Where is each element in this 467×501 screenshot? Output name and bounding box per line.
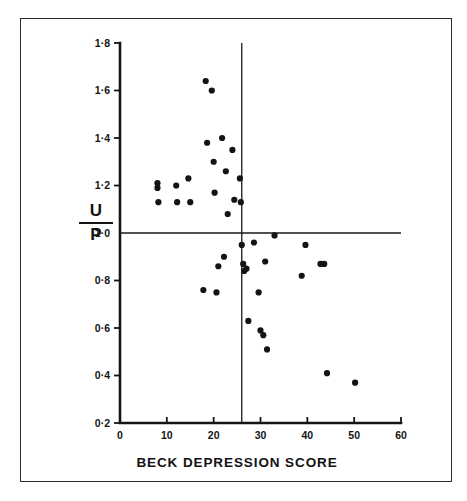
x-tick-label: 30 [255,429,267,441]
data-point [211,159,217,165]
data-point [260,332,266,338]
data-point [200,287,206,293]
data-point [271,232,277,238]
data-point [223,168,229,174]
x-tick-label: 50 [348,429,360,441]
data-point [324,370,330,376]
x-axis-label: BECK DEPRESSION SCORE [21,455,453,470]
data-point [238,199,244,205]
data-point [209,87,215,93]
data-point [237,175,243,181]
y-axis-label-fraction-bar [79,222,113,224]
data-point [302,242,308,248]
data-point [174,199,180,205]
y-tick-label: 1·6 [95,84,110,96]
data-point [321,261,327,267]
data-point [204,140,210,146]
data-point [173,182,179,188]
data-point [225,211,231,217]
data-point [251,239,257,245]
y-axis-label-numerator: U [79,202,113,221]
data-point [221,254,227,260]
data-point [243,266,249,272]
x-tick-label: 40 [301,429,313,441]
figure-frame: 0·20·40·60·81·01·21·41·61·8 010203040506… [20,18,452,482]
y-tick-label: 0·8 [95,274,110,286]
data-points-group [154,78,358,386]
x-tick-label: 60 [395,429,407,441]
data-point [352,380,358,386]
data-point [213,289,219,295]
y-axis-label-denominator: P [79,225,113,244]
data-point [231,197,237,203]
data-point [154,185,160,191]
y-tick-label: 0·4 [95,369,110,381]
data-point [239,242,245,248]
scatter-plot: 0·20·40·60·81·01·21·41·61·8 010203040506… [21,19,453,483]
data-point [187,199,193,205]
data-point [185,175,191,181]
data-point [245,318,251,324]
data-point [262,258,268,264]
data-point [155,199,161,205]
data-point [264,346,270,352]
y-tick-label: 1·4 [95,132,110,144]
data-point [256,289,262,295]
data-point [299,273,305,279]
chart-canvas: 0·20·40·60·81·01·21·41·61·8 010203040506… [21,19,453,483]
y-tick-label: 0·2 [95,417,110,429]
x-tick-label: 10 [161,429,173,441]
y-tick-label: 1·2 [95,179,110,191]
reference-lines-group [120,43,401,423]
data-point [215,263,221,269]
y-tick-label: 0·6 [95,322,110,334]
y-axis-label: U P [79,202,113,244]
x-tick-labels-group: 0102030405060 [117,429,407,441]
data-point [219,135,225,141]
data-point [229,147,235,153]
data-point [212,190,218,196]
y-tick-label: 1·8 [95,37,110,49]
x-tick-label: 20 [208,429,220,441]
data-point [203,78,209,84]
x-tick-label: 0 [117,429,123,441]
